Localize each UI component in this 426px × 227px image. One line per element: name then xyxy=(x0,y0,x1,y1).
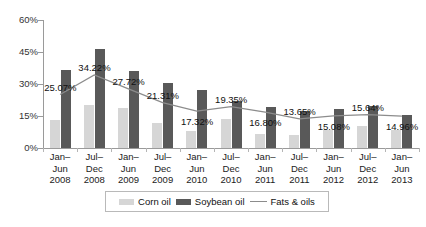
data-label: 17.32% xyxy=(181,117,213,127)
y-axis-tick-label: 0% xyxy=(4,143,38,152)
x-axis-category-label: Jan–Jun2013 xyxy=(381,151,423,186)
y-axis-tick-mark xyxy=(38,52,43,53)
y-axis-tick-mark xyxy=(38,116,43,117)
x-axis-category-line: 2013 xyxy=(381,174,423,186)
y-axis-tick-label: 30% xyxy=(4,79,38,88)
data-label: 16.80% xyxy=(249,118,281,128)
chart-legend: Corn oilSoybean oilFats & oils xyxy=(105,191,329,212)
data-label: 14.96% xyxy=(386,122,418,132)
legend-item-label: Fats & oils xyxy=(271,196,315,207)
legend-item[interactable]: Corn oil xyxy=(119,196,171,207)
fats-and-oils-line-swatch-icon xyxy=(250,201,267,202)
legend-item[interactable]: Fats & oils xyxy=(250,196,315,207)
data-label: 13.65% xyxy=(283,107,315,117)
data-label: 34.22% xyxy=(78,63,110,73)
data-label: 15.08% xyxy=(318,122,350,132)
soybean-oil-swatch-icon xyxy=(176,199,191,205)
y-axis-tick-mark xyxy=(38,20,43,21)
x-axis-category-line: Jun xyxy=(381,163,423,175)
x-axis-category-line: Jan– xyxy=(381,151,423,163)
data-label: 25.07% xyxy=(44,83,76,93)
y-axis-tick-label: 45% xyxy=(4,47,38,56)
legend-item-label: Corn oil xyxy=(138,196,171,207)
x-axis-line xyxy=(43,148,419,149)
y-axis-tick-label: 60% xyxy=(4,15,38,24)
y-axis-tick-label: 15% xyxy=(4,111,38,120)
bar-line-combo-chart: 0%15%30%45%60% Corn oilSoybean oilFats &… xyxy=(0,0,426,227)
corn-oil-swatch-icon xyxy=(119,199,134,205)
data-label: 19.35% xyxy=(215,95,247,105)
y-axis-labels: 0%15%30%45%60% xyxy=(0,0,38,160)
data-label: 21.31% xyxy=(147,91,179,101)
data-label: 15.64% xyxy=(352,103,384,113)
legend-item-label: Soybean oil xyxy=(195,196,245,207)
y-axis-tick-mark xyxy=(38,84,43,85)
legend-item[interactable]: Soybean oil xyxy=(176,196,245,207)
data-label: 27.72% xyxy=(113,77,145,87)
fats-and-oils-line-series xyxy=(43,20,419,148)
